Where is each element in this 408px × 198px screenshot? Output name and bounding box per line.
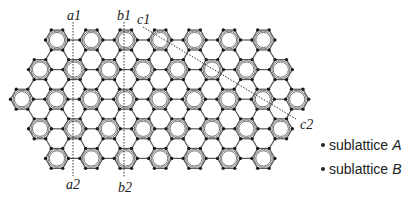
legend-sublattice-name: B <box>392 162 401 176</box>
lattice-figure: a1 b1 c1 a2 b2 c2 sublattice A sublattic… <box>0 0 408 198</box>
label-a2: a2 <box>66 178 80 192</box>
cut-lines <box>73 22 296 178</box>
label-b1: b1 <box>117 9 131 23</box>
legend-item-sublattice-a: sublattice A <box>321 138 402 152</box>
sublattice-a-dot-icon <box>321 143 325 147</box>
legend-sublattice-name: A <box>392 138 401 152</box>
bonds <box>11 30 309 168</box>
legend-text: sublattice <box>329 138 388 152</box>
label-b2: b2 <box>118 181 132 195</box>
legend-item-sublattice-b: sublattice B <box>321 162 402 176</box>
label-c1: c1 <box>137 13 150 27</box>
label-c2: c2 <box>300 118 313 132</box>
sublattice-b-dot-icon <box>321 167 325 171</box>
label-a1: a1 <box>67 9 81 23</box>
legend-text: sublattice <box>329 162 388 176</box>
